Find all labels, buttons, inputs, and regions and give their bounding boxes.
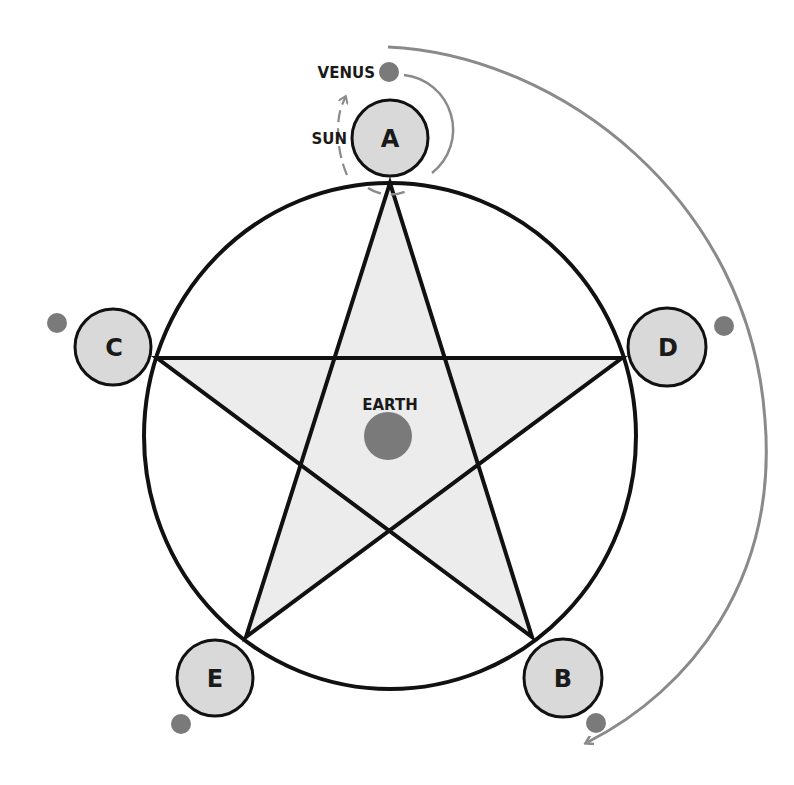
venus-label: VENUS: [318, 64, 375, 82]
svg-text:A: A: [381, 125, 400, 153]
planet-c: [47, 313, 67, 333]
svg-text:E: E: [207, 665, 223, 693]
planet-b: [586, 713, 606, 733]
sun-label: SUN: [311, 130, 347, 148]
node-a: A: [352, 100, 428, 176]
venus-planet: [379, 62, 399, 82]
svg-text:D: D: [658, 334, 678, 362]
node-b: B: [524, 639, 602, 717]
node-e: E: [177, 640, 253, 716]
earth-label: EARTH: [362, 396, 418, 414]
svg-text:C: C: [105, 334, 123, 362]
node-c: C: [75, 309, 151, 385]
pentagram-diagram: EARTH A VENUS SUN C D E B: [0, 0, 794, 785]
svg-text:B: B: [554, 665, 572, 693]
earth-planet: [364, 412, 412, 460]
planet-e: [171, 714, 191, 734]
planet-d: [714, 316, 734, 336]
node-d: D: [628, 308, 706, 386]
